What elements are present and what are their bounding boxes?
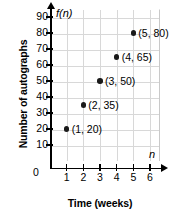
- gridline-vertical: [100, 10, 101, 161]
- x-axis-arrow-icon: [161, 164, 168, 172]
- data-point-label: (4, 65): [122, 51, 152, 63]
- y-tick-mark: [46, 96, 53, 97]
- gridline-horizontal: [50, 146, 159, 147]
- x-tick-mark: [99, 164, 100, 171]
- x-tick-mark: [116, 164, 117, 171]
- y-axis-arrow-icon: [47, 2, 55, 9]
- y-axis-tick-labels: 102030405060708090: [26, 8, 48, 160]
- origin-label: 0: [33, 166, 39, 178]
- x-tick-label: 2: [75, 171, 91, 183]
- x-tick-label: 3: [92, 171, 108, 183]
- data-point-label: (2, 35): [88, 99, 118, 111]
- x-tick-label: 1: [59, 171, 75, 183]
- y-tick-mark: [46, 80, 53, 81]
- gridline-horizontal: [50, 114, 159, 115]
- x-tick-label: 5: [125, 171, 141, 183]
- y-tick-label: 30: [26, 106, 48, 118]
- y-tick-mark: [46, 32, 53, 33]
- y-tick-label: 50: [26, 74, 48, 86]
- gridline-vertical: [67, 10, 68, 161]
- x-axis-variable-label: n: [149, 148, 155, 160]
- y-tick-label: 70: [26, 42, 48, 54]
- x-tick-label: 4: [109, 171, 125, 183]
- y-tick-label: 80: [26, 26, 48, 38]
- x-tick-label: 6: [142, 171, 158, 183]
- y-axis-variable-label: f(n): [56, 7, 73, 19]
- data-point: [97, 78, 103, 84]
- data-point-label: (3, 50): [105, 75, 135, 87]
- gridline-vertical: [83, 10, 84, 161]
- y-tick-mark: [46, 64, 53, 65]
- data-point: [81, 102, 87, 108]
- y-tick-mark: [46, 112, 53, 113]
- y-tick-mark: [46, 128, 53, 129]
- x-tick-mark: [66, 164, 67, 171]
- scatter-plot-figure: Number of autographs 102030405060708090 …: [0, 0, 174, 220]
- y-tick-label: 10: [26, 138, 48, 150]
- x-axis-title: Time (weeks): [30, 197, 170, 209]
- y-tick-label: 60: [26, 58, 48, 70]
- gridline-horizontal: [50, 66, 159, 67]
- y-tick-mark: [46, 144, 53, 145]
- x-tick-mark: [83, 164, 84, 171]
- data-point-label: (5, 80): [138, 27, 168, 39]
- data-point: [131, 30, 137, 36]
- y-tick-label: 20: [26, 122, 48, 134]
- data-point-label: (1, 20): [72, 123, 102, 135]
- y-tick-mark: [46, 16, 53, 17]
- x-tick-mark: [133, 164, 134, 171]
- y-tick-label: 90: [26, 10, 48, 22]
- y-tick-label: 40: [26, 90, 48, 102]
- y-tick-mark: [46, 48, 53, 49]
- x-tick-mark: [149, 164, 150, 171]
